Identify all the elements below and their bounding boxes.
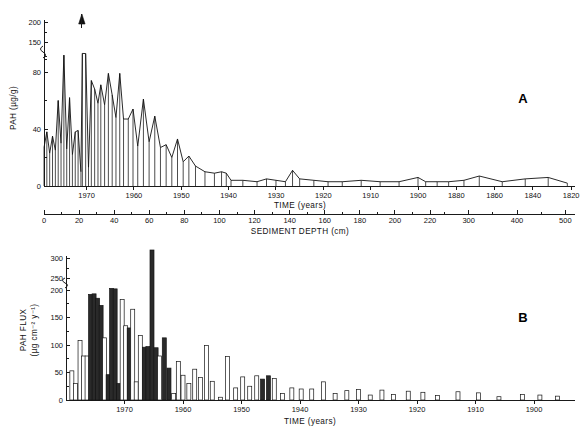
panel-b-bar bbox=[73, 384, 77, 401]
panel-b-bar bbox=[280, 393, 284, 400]
panel-b-bar bbox=[172, 393, 176, 400]
panel-b-bar bbox=[158, 356, 162, 400]
depth-axis-title: SEDIMENT DEPTH (cm) bbox=[251, 227, 349, 236]
depth-axis-tick-label: 140 bbox=[283, 216, 296, 225]
panel-a-xtick-label: 1920 bbox=[315, 191, 332, 200]
panel-b-bar bbox=[181, 375, 185, 400]
panel-b-ylabel-line1: PAH FLUX bbox=[19, 309, 28, 352]
panel-b-bar bbox=[333, 393, 337, 400]
panel-b-bar bbox=[497, 397, 501, 400]
panel-b-ytick-label: 50 bbox=[55, 368, 63, 377]
panel-b-xtick-label: 1960 bbox=[175, 405, 192, 414]
depth-axis-tick-label: 0 bbox=[42, 216, 46, 225]
panel-b-group: 050100150200250300PAH FLUX(µg cm⁻² y⁻¹)1… bbox=[19, 250, 575, 426]
panel-a-axis-break bbox=[41, 46, 46, 58]
panel-b-bar bbox=[555, 396, 559, 400]
panel-b-bar bbox=[193, 369, 197, 400]
panel-a-ytick-label: 0 bbox=[37, 182, 41, 191]
panel-b-bar bbox=[290, 388, 294, 400]
panel-letter-a: A bbox=[518, 91, 528, 106]
panel-a-xtick-label: 1930 bbox=[268, 191, 285, 200]
panel-b-xtick-label: 1970 bbox=[116, 405, 133, 414]
depth-axis-tick-label: 100 bbox=[213, 216, 226, 225]
panel-b-xtick-label: 1910 bbox=[467, 405, 484, 414]
panel-b-axis-break bbox=[63, 278, 68, 288]
depth-axis-tick-label: 80 bbox=[180, 216, 188, 225]
depth-axis-tick-label: 60 bbox=[145, 216, 153, 225]
depth-axis-tick-label: 500 bbox=[559, 216, 572, 225]
panel-b-bar bbox=[520, 395, 524, 401]
panel-b-xaxis-title: TIME (years) bbox=[284, 417, 336, 426]
panel-b-bar bbox=[167, 368, 171, 400]
panel-b-bar bbox=[134, 382, 138, 400]
panel-b-bar bbox=[368, 395, 372, 400]
sediment-depth-axis-group: 020406080100120140160180200220300400500S… bbox=[42, 210, 575, 236]
panel-b-bar bbox=[234, 388, 238, 400]
depth-axis-tick-label: 20 bbox=[75, 216, 83, 225]
panel-a-xtick-label: 1880 bbox=[448, 191, 465, 200]
depth-axis-tick-label: 220 bbox=[424, 216, 437, 225]
panel-a-xtick-label: 1900 bbox=[410, 191, 427, 200]
panel-b-bar bbox=[199, 377, 203, 400]
panel-b-ytick-label: 300 bbox=[50, 254, 63, 263]
depth-axis-tick-label: 400 bbox=[511, 216, 524, 225]
panel-b-ytick-label: 100 bbox=[50, 341, 63, 350]
panel-b-bar bbox=[162, 338, 166, 400]
panel-b-bar bbox=[248, 386, 252, 400]
panel-b-bar bbox=[255, 376, 259, 400]
panel-b-ytick-label: 250 bbox=[50, 274, 63, 283]
pah-sediment-figure: 04080150200PAH (µg/g)1970196019501940193… bbox=[0, 0, 583, 434]
panel-b-bar bbox=[241, 377, 245, 400]
panel-a-xtick-label: 1910 bbox=[362, 191, 379, 200]
panel-b-xtick-label: 1900 bbox=[526, 405, 543, 414]
panel-b-bar bbox=[538, 395, 542, 400]
panel-a-xtick-label: 1970 bbox=[78, 191, 95, 200]
panel-b-bar bbox=[266, 376, 270, 400]
panel-b-xtick-label: 1940 bbox=[292, 405, 309, 414]
panel-b-xtick-label: 1930 bbox=[350, 405, 367, 414]
panel-b-ylabel-line2: (µg cm⁻² y⁻¹) bbox=[30, 304, 39, 357]
panel-b-ylabel-group: PAH FLUX(µg cm⁻² y⁻¹) bbox=[19, 304, 39, 357]
panel-b-xtick-label: 1920 bbox=[409, 405, 426, 414]
panel-b-bar bbox=[176, 362, 180, 401]
panel-a-group: 04080150200PAH (µg/g)1970196019501940193… bbox=[9, 14, 580, 210]
panel-a-ytick-label: 40 bbox=[33, 125, 41, 134]
panel-a-xtick-label: 1840 bbox=[525, 191, 542, 200]
panel-b-bar bbox=[392, 395, 396, 401]
panel-a-ytick-label: 150 bbox=[28, 38, 41, 47]
panel-a-xtick-label: 1820 bbox=[563, 191, 580, 200]
panel-a-xtick-label: 1960 bbox=[126, 191, 143, 200]
panel-b-bar bbox=[150, 250, 154, 400]
panel-b-bar bbox=[146, 347, 150, 400]
panel-b-bar bbox=[210, 381, 214, 400]
panel-letter-b: B bbox=[518, 310, 527, 325]
panel-b-ytick-label: 200 bbox=[50, 286, 63, 295]
panel-b-bar bbox=[272, 379, 276, 400]
panel-b-bar bbox=[357, 390, 361, 400]
panel-b-bar bbox=[406, 391, 410, 400]
panel-b-bar bbox=[225, 357, 229, 400]
depth-axis-tick-label: 40 bbox=[110, 216, 118, 225]
panel-a-xtick-label: 1860 bbox=[486, 191, 503, 200]
panel-b-bar bbox=[204, 346, 208, 400]
panel-b-bar bbox=[436, 396, 440, 400]
panel-b-bar bbox=[261, 379, 265, 400]
panel-a-xaxis-title: TIME (years) bbox=[274, 201, 326, 210]
panel-b-bar bbox=[380, 390, 384, 400]
panel-b-bar bbox=[218, 397, 222, 400]
panel-a-ytick-label: 200 bbox=[28, 18, 41, 27]
panel-b-bar bbox=[476, 393, 480, 400]
panel-a-xtick-label: 1950 bbox=[173, 191, 190, 200]
panel-b-ytick-label: 150 bbox=[50, 313, 63, 322]
panel-a-series-line bbox=[44, 53, 567, 183]
panel-b-bar bbox=[345, 391, 349, 400]
panel-b-bar bbox=[299, 389, 303, 400]
depth-axis-tick-label: 180 bbox=[354, 216, 367, 225]
panel-b-bar bbox=[187, 384, 191, 401]
panel-b-bar bbox=[138, 336, 142, 400]
panel-a-xtick-label: 1940 bbox=[220, 191, 237, 200]
depth-axis-tick-label: 300 bbox=[462, 216, 475, 225]
depth-axis-tick-label: 160 bbox=[318, 216, 331, 225]
panel-a-ytick-label: 80 bbox=[33, 68, 41, 77]
panel-b-xtick-label: 1950 bbox=[233, 405, 250, 414]
